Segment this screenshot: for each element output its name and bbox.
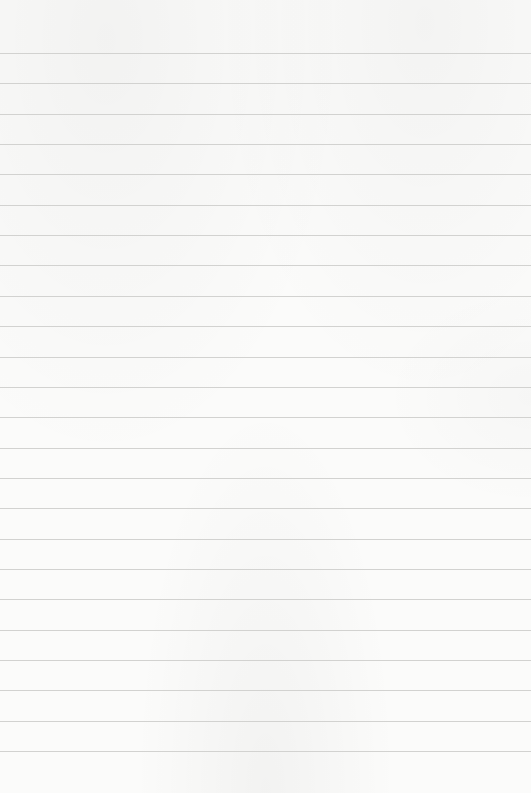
ruled-line — [0, 174, 531, 175]
ruled-line — [0, 448, 531, 449]
ruled-line — [0, 660, 531, 661]
ruled-line — [0, 721, 531, 722]
ruled-line — [0, 630, 531, 631]
ruled-line — [0, 478, 531, 479]
ruled-line — [0, 114, 531, 115]
ruled-line — [0, 326, 531, 327]
ruled-line — [0, 539, 531, 540]
ruled-line — [0, 265, 531, 266]
ruled-line — [0, 387, 531, 388]
ruled-line — [0, 144, 531, 145]
ruled-line — [0, 357, 531, 358]
ruled-line — [0, 417, 531, 418]
ruled-line — [0, 83, 531, 84]
ruled-line — [0, 296, 531, 297]
ruled-line — [0, 569, 531, 570]
ruled-line — [0, 599, 531, 600]
ruled-line — [0, 508, 531, 509]
ruled-line — [0, 53, 531, 54]
lined-paper-sheet — [0, 0, 531, 793]
ruled-line — [0, 690, 531, 691]
ruled-line — [0, 751, 531, 752]
ruled-line — [0, 205, 531, 206]
ruled-line — [0, 235, 531, 236]
